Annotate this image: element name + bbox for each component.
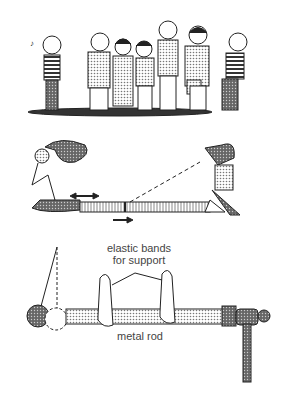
person-child [136,41,154,110]
label-line-2: for support [94,254,184,266]
spring-panel [32,140,240,223]
sight-line [130,162,200,202]
rod-panel [27,247,270,382]
crowd-panel: ♪ [28,21,247,116]
person-right-observing [205,144,240,215]
person-tall [158,21,178,110]
metal-rod [66,309,224,324]
person-striped-right [222,33,247,110]
person-striped-left: ♪ [30,36,61,110]
double-arrow [70,193,99,199]
label-line-1: elastic bands [94,242,184,254]
pendulum-string [40,247,57,310]
label-elastic-bands: elastic bands for support [94,242,184,266]
svg-text:♪: ♪ [30,39,34,48]
spring-coil [80,202,210,212]
hammer [222,306,270,382]
person-suit [88,33,110,110]
person-sitting-left [32,140,87,211]
elastic-band-left [98,274,113,326]
elastic-band-right [160,270,175,323]
wave-direction-arrow [113,217,133,223]
band-pointer [112,273,162,285]
person-woman-2 [185,26,209,110]
label-metal-rod: metal rod [105,330,175,342]
person-woman-1 [113,39,133,106]
